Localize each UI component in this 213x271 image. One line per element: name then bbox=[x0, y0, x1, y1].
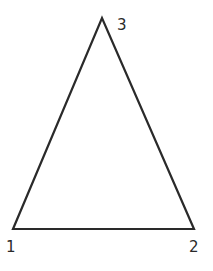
vertex-label-2: 2 bbox=[189, 238, 199, 256]
vertex-label-3: 3 bbox=[117, 16, 127, 34]
diagram-canvas: 1 2 3 bbox=[0, 0, 213, 271]
vertex-label-1: 1 bbox=[6, 238, 16, 256]
triangle-diagram: 1 2 3 bbox=[0, 0, 213, 271]
triangle-shape bbox=[13, 18, 194, 229]
